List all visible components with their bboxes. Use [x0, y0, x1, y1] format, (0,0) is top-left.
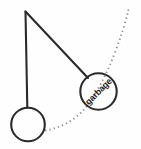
- pendulum-diagram: garbage: [0, 0, 141, 149]
- diagonal-rod: [26, 12, 89, 79]
- vertical-rod: [26, 12, 28, 108]
- swing-arc-path: [45, 10, 129, 131]
- rest-bob-circle: [11, 108, 45, 142]
- displaced-bob-label: garbage: [83, 76, 114, 107]
- diagram-canvas: garbage: [0, 0, 141, 149]
